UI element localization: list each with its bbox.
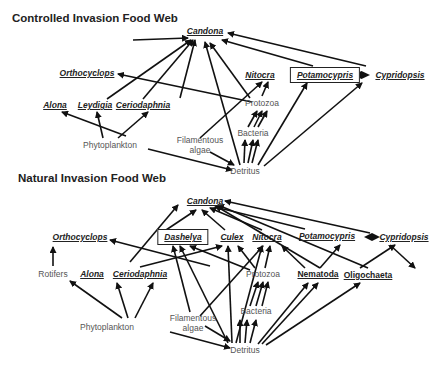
edge-phytoplankton-to-alona <box>62 112 126 136</box>
edge-oligochaeta-to-cypridopsis <box>360 245 395 268</box>
node-candona: Candona <box>187 196 223 206</box>
node-culex: Culex <box>220 232 243 242</box>
edge-protozoa-to-candona <box>210 43 250 98</box>
food-web-diagram-canvas <box>0 0 444 369</box>
node-filamentous: Filamentousalgae <box>177 135 223 155</box>
edge-phytoplankton-to-ceriodaphnia <box>118 112 148 138</box>
edge-leydigia-to-candona <box>107 40 191 99</box>
edge-protozoa-to-nitocra <box>262 82 268 96</box>
node-oligochaeta: Oligochaeta <box>344 270 393 280</box>
edge-phytoplankton-to-alona <box>117 283 128 318</box>
edge-cypridopsis_line-to-oligochaeta <box>390 245 415 268</box>
node-potamocypris: Potamocypris <box>299 231 355 241</box>
edge-potamocypris-to-candona <box>215 207 305 229</box>
edge-detritus-to-cypridopsis <box>264 83 362 166</box>
node-leydigia: Leydigia <box>78 100 112 110</box>
node-nitocra: Nitocra <box>252 232 281 242</box>
node-detritus: Detritus <box>230 166 259 176</box>
node-protozoa: Protozoa <box>246 269 280 279</box>
edge-ceriodaphnia-to-candona <box>143 40 193 99</box>
node-orthocyclops: Orthocyclops <box>53 232 108 242</box>
node-cypridopsis: Cypridopsis <box>375 70 424 80</box>
node-alona: Alona <box>80 269 104 279</box>
edge-alona-to-candona <box>133 38 188 40</box>
edge-detritus-to-bacteria <box>250 320 256 343</box>
node-orthocyclops: Orthocyclops <box>60 68 115 78</box>
node-potamocypris: Potamocypris <box>290 67 360 83</box>
edge-potamocypris-to-candona <box>222 40 313 66</box>
edge-detritus-to-potamocypris <box>258 83 307 165</box>
edge-phytoplankton-to-ceriodaphnia <box>135 283 153 318</box>
node-dashelya: Dashelya <box>157 229 208 245</box>
natural-diagram-title: Natural Invasion Food Web <box>18 172 166 184</box>
edge-detritus-to-bacteria <box>245 320 247 343</box>
edge-detritus-to-bacteria <box>244 140 245 163</box>
node-phytoplankton: Phytoplankton <box>80 322 134 332</box>
edge-protozoa-to-nitocra <box>265 246 270 268</box>
node-ceriodaphnia: Ceriodaphnia <box>113 269 167 279</box>
controlled-diagram-title: Controlled Invasion Food Web <box>12 12 178 24</box>
edge-phytoplankton-to-rotifers <box>70 281 122 318</box>
node-phytoplankton: Phytoplankton <box>83 140 137 150</box>
node-protozoa: Protozoa <box>245 98 279 108</box>
node-alona: Alona <box>43 100 67 110</box>
edge-phytoplankton-to-detritus <box>170 332 230 348</box>
edge-nitocra-to-candona <box>210 208 262 230</box>
bidirectional-arrow-icon <box>364 233 380 241</box>
node-bacteria: Bacteria <box>240 306 271 316</box>
edge-detritus-to-oligochaeta <box>266 283 360 345</box>
node-nematoda: Nematoda <box>297 269 338 279</box>
node-detritus: Detritus <box>230 345 259 355</box>
edges-layer <box>53 33 415 348</box>
node-rotifers: Rotifers <box>38 269 67 279</box>
edge-detritus-to-culex <box>228 246 232 343</box>
node-ceriodaphnia: Ceriodaphnia <box>116 100 170 110</box>
node-candona: Candona <box>187 26 223 36</box>
edge-bacteria-to-protozoa <box>262 282 268 306</box>
node-filamentous: Filamentousalgae <box>170 313 216 333</box>
edge-bacteria-to-protozoa <box>258 111 267 127</box>
node-cypridopsis: Cypridopsis <box>379 232 428 242</box>
node-nitocra: Nitocra <box>245 70 274 80</box>
node-bacteria: Bacteria <box>237 128 268 138</box>
